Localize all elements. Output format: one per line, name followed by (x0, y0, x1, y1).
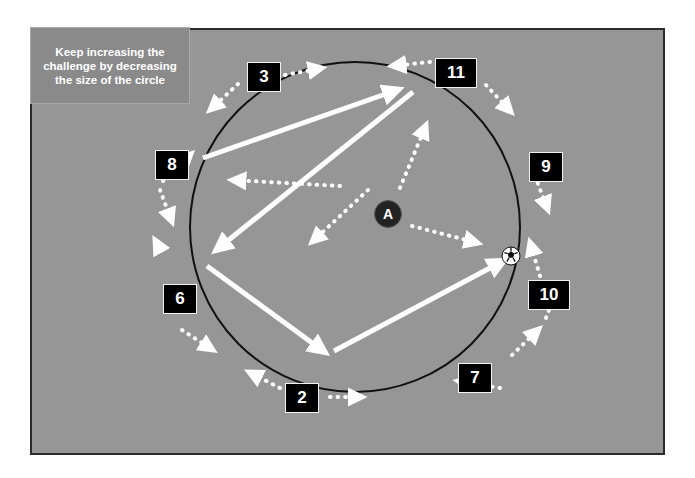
player-marker-label: 11 (447, 63, 465, 83)
player-marker-3[interactable]: 3 (247, 62, 281, 92)
player-marker-11[interactable]: 11 (435, 58, 477, 88)
player-marker-label: 8 (167, 155, 176, 175)
player-marker-7[interactable]: 7 (458, 363, 492, 393)
player-marker-label: 9 (541, 157, 550, 177)
player-marker-label: 6 (175, 289, 184, 309)
server-label: A (383, 206, 393, 222)
player-marker-label: 7 (470, 368, 479, 388)
soccer-ball (501, 246, 521, 270)
player-marker-label: 2 (297, 388, 306, 408)
player-marker-10[interactable]: 10 (528, 280, 570, 310)
player-marker-8[interactable]: 8 (155, 150, 189, 180)
player-marker-6[interactable]: 6 (163, 284, 197, 314)
player-marker-9[interactable]: 9 (529, 152, 563, 182)
coaching-note: Keep increasing the challenge by decreas… (30, 27, 190, 104)
coaching-note-text: Keep increasing the challenge by decreas… (37, 45, 183, 87)
player-marker-label: 3 (259, 67, 268, 87)
player-marker-2[interactable]: 2 (285, 383, 319, 413)
player-marker-label: 10 (540, 285, 559, 305)
diagram-stage: Keep increasing the challenge by decreas… (0, 0, 695, 478)
server-marker[interactable]: A (374, 200, 402, 228)
